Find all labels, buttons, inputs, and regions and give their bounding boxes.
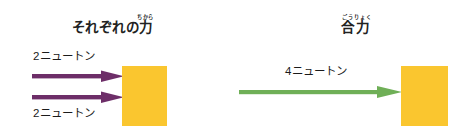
force-label-bottom-left: 2ニュートン (33, 108, 96, 120)
force-label-top-left: 2ニュートン (33, 51, 96, 63)
panel-title-resultant-force: 合ごう力りょく (341, 14, 371, 35)
panel-title-right-furigana-1: ごう (341, 14, 354, 20)
block-left (122, 66, 167, 126)
force-arrow-top-left-icon (32, 70, 124, 82)
panel-title-left-body: それぞれの (72, 20, 139, 35)
force-arrow-bottom-left-icon (32, 91, 124, 103)
force-label-resultant: 4ニュートン (285, 66, 348, 78)
panel-title-individual-forces: それぞれの力ちから (72, 14, 154, 35)
panel-title-left-ruby-group: 力ちから (139, 20, 154, 35)
panel-title-left-furigana: ちから (137, 14, 154, 20)
block-right (401, 66, 448, 126)
panel-title-right-kanji-1: 合 (341, 20, 354, 35)
force-arrow-resultant-icon (239, 85, 402, 99)
panel-title-left-kanji: 力 (137, 20, 154, 35)
panel-title-right-kanji-2: 力 (354, 20, 371, 35)
panel-title-right-ruby-group-2: 力りょく (354, 20, 371, 35)
force-composition-diagram: それぞれの力ちから 2ニュートン 2ニュートン 合ごう力りょく 4ニュートン (0, 0, 475, 134)
panel-title-right-furigana-2: りょく (354, 14, 371, 20)
panel-title-right-ruby-group-1: 合ごう (341, 20, 354, 35)
